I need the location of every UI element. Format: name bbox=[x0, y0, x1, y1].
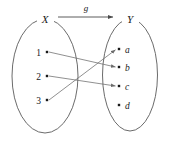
element-label-2: 2 bbox=[36, 72, 41, 82]
diagram-canvas: X Y g 1 2 3 a b c d bbox=[0, 0, 170, 141]
element-dot-d bbox=[118, 104, 120, 106]
element-dot-2 bbox=[46, 75, 48, 77]
element-dot-1 bbox=[46, 51, 48, 53]
element-label-c: c bbox=[125, 82, 130, 92]
set-y-ellipse bbox=[103, 19, 158, 131]
set-x-ellipse bbox=[12, 19, 78, 133]
element-label-3: 3 bbox=[36, 96, 41, 106]
element-label-a: a bbox=[125, 45, 130, 55]
element-dot-a bbox=[118, 48, 120, 50]
function-mapping-diagram: X Y g 1 2 3 a b c d bbox=[0, 0, 170, 141]
element-label-b: b bbox=[125, 63, 130, 73]
element-dot-c bbox=[118, 85, 120, 87]
element-label-d: d bbox=[125, 101, 130, 111]
element-dot-3 bbox=[46, 99, 48, 101]
mapping-arrow-3-to-a bbox=[49, 50, 116, 100]
function-label-g: g bbox=[84, 3, 89, 13]
set-x-label: X bbox=[41, 13, 50, 25]
element-dot-b bbox=[118, 66, 120, 68]
mapping-arrow-2-to-c bbox=[49, 76, 116, 86]
element-label-1: 1 bbox=[36, 48, 41, 58]
mapping-arrow-1-to-b bbox=[49, 52, 116, 67]
